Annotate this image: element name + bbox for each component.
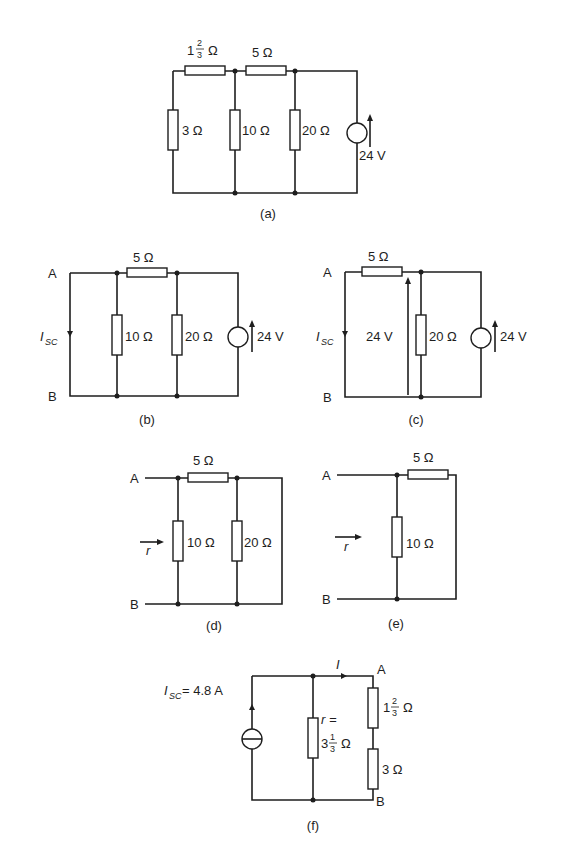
isc-sub: SC bbox=[169, 691, 182, 701]
label-24v: 24 V bbox=[257, 329, 284, 344]
label-20-ohm: 20 Ω bbox=[244, 535, 272, 550]
label-24v-arrow: 24 V bbox=[366, 329, 393, 344]
isc-sub: SC bbox=[45, 337, 58, 347]
resistor-20-ohm bbox=[416, 315, 426, 355]
label-5-ohm: 5 Ω bbox=[368, 249, 389, 264]
voltage-arrow-icon bbox=[405, 277, 411, 284]
node-b-label: B bbox=[130, 597, 139, 612]
arrow-up-icon bbox=[249, 320, 255, 327]
resistor-10-ohm bbox=[230, 110, 240, 150]
r-label: r = bbox=[321, 712, 337, 727]
resistor-r bbox=[308, 718, 318, 758]
label-5-ohm: 5 Ω bbox=[193, 453, 214, 468]
arrow-up-icon bbox=[492, 320, 498, 327]
caption-b: (b) bbox=[139, 412, 155, 427]
label-20-ohm: 20 Ω bbox=[185, 329, 213, 344]
voltage-source-icon bbox=[347, 123, 367, 143]
arrow-right-icon bbox=[355, 534, 362, 540]
frac-num: 1 bbox=[330, 732, 335, 742]
label-24v: 24 V bbox=[359, 148, 386, 163]
label-24v: 24 V bbox=[500, 329, 527, 344]
isc-label: I bbox=[316, 329, 320, 344]
node-b-label: B bbox=[322, 592, 331, 607]
resistor-1-2-3-ohm bbox=[185, 66, 225, 75]
resistor-5-ohm bbox=[408, 470, 448, 479]
arrow-right-icon bbox=[157, 539, 164, 545]
isc-value: = 4.8 A bbox=[182, 683, 223, 698]
frac-unit: Ω bbox=[208, 43, 218, 58]
voltage-source-icon bbox=[228, 327, 248, 347]
resistor-10-ohm bbox=[112, 315, 122, 355]
label-10-ohm: 10 Ω bbox=[406, 536, 434, 551]
resistor-5-ohm bbox=[188, 473, 228, 482]
r-top-whole: 1 bbox=[383, 700, 390, 715]
frac-den: 3 bbox=[330, 744, 335, 754]
node-b-label: B bbox=[48, 389, 57, 404]
label-5-ohm: 5 Ω bbox=[413, 450, 434, 465]
circuit-a: 1 2 3 Ω 5 Ω 3 Ω 10 Ω 20 Ω 24 V (a) bbox=[168, 38, 386, 221]
resistor-10-ohm bbox=[173, 521, 183, 561]
frac-unit: Ω bbox=[403, 700, 413, 715]
frac-num: 2 bbox=[392, 696, 397, 706]
isc-label: I bbox=[164, 683, 168, 698]
caption-e: (e) bbox=[388, 616, 404, 631]
resistor-5-ohm bbox=[127, 268, 167, 277]
circuit-figure: 1 2 3 Ω 5 Ω 3 Ω 10 Ω 20 Ω 24 V (a) A B I… bbox=[0, 0, 564, 864]
resistor-20-ohm bbox=[290, 110, 300, 150]
label-20-ohm: 20 Ω bbox=[302, 123, 330, 138]
frac-den: 3 bbox=[392, 708, 397, 718]
resistor-3-ohm bbox=[368, 749, 378, 789]
caption-c: (c) bbox=[408, 412, 423, 427]
node-a-label: A bbox=[323, 265, 332, 280]
r-label: r bbox=[344, 539, 349, 554]
caption-d: (d) bbox=[206, 618, 222, 633]
node-a-label: A bbox=[322, 468, 331, 483]
frac-den: 3 bbox=[197, 50, 202, 60]
circuit-d: A B r 5 Ω 10 Ω 20 Ω (d) bbox=[130, 453, 282, 633]
r-value-whole: 3 bbox=[321, 736, 328, 751]
arrow-up-icon bbox=[249, 704, 255, 710]
isc-label: I bbox=[40, 329, 44, 344]
isc-sub: SC bbox=[321, 337, 334, 347]
arrow-down-icon bbox=[67, 331, 73, 337]
node-a-label: A bbox=[377, 662, 386, 677]
node-a-label: A bbox=[130, 471, 139, 486]
frac-unit: Ω bbox=[341, 736, 351, 751]
label-1-2-3-whole: 1 bbox=[187, 43, 194, 58]
arrow-right-icon bbox=[341, 673, 347, 679]
circuit-e: A B r 5 Ω 10 Ω (e) bbox=[322, 450, 456, 631]
resistor-5-ohm bbox=[362, 267, 402, 276]
label-20-ohm: 20 Ω bbox=[429, 329, 457, 344]
label-3-ohm: 3 Ω bbox=[382, 762, 403, 777]
label-5-ohm: 5 Ω bbox=[133, 250, 154, 265]
arrow-up-icon bbox=[367, 114, 373, 121]
resistor-10-ohm bbox=[392, 517, 402, 557]
node-b-label: B bbox=[323, 390, 332, 405]
caption-f: (f) bbox=[307, 818, 319, 833]
resistor-1-2-3-ohm bbox=[368, 688, 378, 728]
frac-num: 2 bbox=[197, 38, 202, 48]
resistor-3-ohm bbox=[168, 110, 178, 150]
circuit-b: A B I SC 5 Ω 10 Ω 20 Ω 24 V (b) bbox=[40, 250, 284, 427]
caption-a: (a) bbox=[260, 206, 276, 221]
circuit-c: A B I SC 5 Ω 24 V 20 Ω 24 V (c) bbox=[316, 249, 527, 427]
node-b-label: B bbox=[376, 794, 385, 809]
resistor-5-ohm bbox=[246, 66, 286, 75]
resistor-20-ohm bbox=[172, 315, 182, 355]
label-10-ohm: 10 Ω bbox=[242, 123, 270, 138]
r-label: r bbox=[146, 543, 151, 558]
label-5-ohm: 5 Ω bbox=[252, 45, 273, 60]
resistor-20-ohm bbox=[232, 521, 242, 561]
circuit-f: I SC = 4.8 A I A B r = 3 1 3 Ω 1 2 3 Ω 3… bbox=[164, 657, 413, 833]
label-10-ohm: 10 Ω bbox=[187, 535, 215, 550]
node-a-label: A bbox=[48, 266, 57, 281]
current-i-label: I bbox=[336, 657, 340, 672]
arrow-down-icon bbox=[342, 331, 348, 337]
label-3-ohm: 3 Ω bbox=[182, 123, 203, 138]
voltage-source-icon bbox=[471, 328, 491, 348]
label-10-ohm: 10 Ω bbox=[125, 329, 153, 344]
